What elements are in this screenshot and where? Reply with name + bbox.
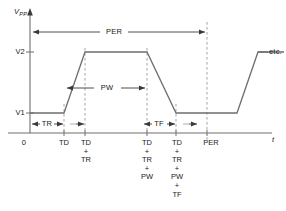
waveform-trace bbox=[30, 52, 284, 113]
per-label: PER bbox=[106, 28, 122, 36]
tick-line: PER bbox=[203, 139, 218, 148]
tick-line: PW bbox=[141, 173, 153, 182]
x-tick-label-td: TD bbox=[59, 139, 69, 148]
etc-label: etc. bbox=[269, 48, 282, 56]
x-tick-label-td-tr: TD + TR bbox=[81, 139, 91, 165]
dashed-guides bbox=[64, 22, 207, 143]
x-axis-label: t bbox=[272, 136, 274, 144]
x-tick-label-per: PER bbox=[203, 139, 218, 148]
tick-line: TD bbox=[59, 139, 69, 148]
tf-label: TF bbox=[154, 120, 164, 128]
tr-label: TR bbox=[42, 120, 52, 128]
origin-label: 0 bbox=[22, 139, 26, 147]
y-axis-label: VPP bbox=[14, 8, 27, 16]
tick-line: TF bbox=[171, 191, 183, 200]
y-tick-label-v1: V1 bbox=[15, 109, 25, 117]
x-tick-label-td-tr-pw: TD + TR + PW bbox=[141, 139, 153, 182]
y-axis bbox=[27, 8, 33, 133]
pw-label: PW bbox=[101, 84, 113, 92]
tick-line: TR bbox=[81, 156, 91, 165]
x-tick-label-td-tr-pw-tf: TD + TR + PW + TF bbox=[171, 139, 183, 199]
pulse-timing-diagram: VPP t V2 V1 0 TD TD + TR TD + TR + PW TD… bbox=[0, 0, 286, 211]
y-tick-label-v2: V2 bbox=[15, 48, 25, 56]
